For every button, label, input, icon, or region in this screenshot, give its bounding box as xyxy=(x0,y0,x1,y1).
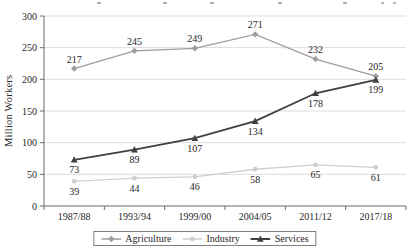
data-label: 39 xyxy=(69,186,79,197)
legend-item-industry: Industry xyxy=(182,233,239,244)
data-label: 73 xyxy=(69,164,79,175)
series-line-agriculture xyxy=(74,34,376,76)
line-chart: 0501001502002503001987/881993/941999/002… xyxy=(0,0,410,250)
y-tick-label: 150 xyxy=(22,106,37,117)
diamond-marker-icon xyxy=(101,234,121,244)
circle-marker-icon xyxy=(182,234,202,244)
data-label: 232 xyxy=(308,44,323,55)
x-tick-label: 2004/05 xyxy=(239,211,272,222)
x-tick-label: 2017/18 xyxy=(359,211,392,222)
legend-item-services: Services xyxy=(251,233,309,244)
y-tick-label: 100 xyxy=(22,137,37,148)
data-label: 249 xyxy=(187,33,202,44)
legend-label: Agriculture xyxy=(125,233,171,244)
legend-item-agriculture: Agriculture xyxy=(101,233,171,244)
legend-label: Industry xyxy=(206,233,239,244)
data-point-marker xyxy=(108,235,114,241)
data-point-marker xyxy=(72,179,77,184)
data-point-marker xyxy=(192,174,197,179)
y-tick-label: 250 xyxy=(22,42,37,53)
data-point-marker xyxy=(132,176,137,181)
chart-area: 0501001502002503001987/881993/941999/002… xyxy=(0,0,410,250)
data-point-marker xyxy=(253,167,258,172)
data-label: 107 xyxy=(187,143,202,154)
series-line-services xyxy=(74,80,376,160)
y-axis-title: Million Workers xyxy=(3,16,14,206)
data-label: 134 xyxy=(248,126,263,137)
data-point-marker xyxy=(312,56,318,62)
data-label: 245 xyxy=(127,36,142,47)
data-label: 205 xyxy=(368,61,383,72)
data-point-marker xyxy=(313,162,318,167)
legend-label: Services xyxy=(275,233,309,244)
x-tick-label: 1993/94 xyxy=(118,211,151,222)
y-tick-label: 50 xyxy=(27,169,37,180)
data-label: 217 xyxy=(67,54,82,65)
data-label: 271 xyxy=(248,19,263,30)
series-line-industry xyxy=(74,165,376,181)
y-tick-label: 300 xyxy=(22,11,37,22)
triangle-marker-icon xyxy=(251,234,271,244)
x-tick-label: 1999/00 xyxy=(178,211,211,222)
data-label: 61 xyxy=(371,172,381,183)
data-point-marker xyxy=(192,45,198,51)
data-point-marker xyxy=(373,165,378,170)
chart-legend: AgricultureIndustryServices xyxy=(93,231,316,246)
data-point-marker xyxy=(71,65,77,71)
data-label: 89 xyxy=(130,154,140,165)
x-tick-label: 1987/88 xyxy=(58,211,91,222)
data-label: 199 xyxy=(368,84,383,95)
data-label: 65 xyxy=(311,169,321,180)
data-point-marker xyxy=(131,48,137,54)
y-tick-label: 0 xyxy=(32,201,37,212)
data-label: 58 xyxy=(250,174,260,185)
y-tick-label: 200 xyxy=(22,74,37,85)
data-label: 46 xyxy=(190,181,200,192)
data-label: 178 xyxy=(308,98,323,109)
data-label: 44 xyxy=(130,183,140,194)
x-tick-label: 2011/12 xyxy=(299,211,331,222)
data-point-marker xyxy=(252,31,258,37)
data-point-marker xyxy=(190,236,195,241)
